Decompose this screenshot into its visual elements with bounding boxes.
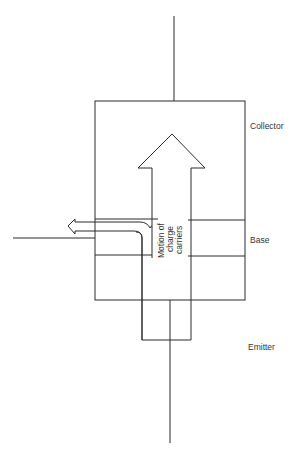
emitter-label: Emitter (248, 342, 275, 352)
base-label: Base (250, 235, 270, 245)
base-branch-outer (75, 222, 152, 228)
motion-label: Motion of charge carriers (156, 222, 184, 258)
motion-label-line3: carriers (174, 226, 184, 254)
collector-label: Collector (250, 121, 284, 131)
transistor-body (95, 101, 245, 300)
transistor-diagram: Collector Base Emitter Motion of charge … (0, 0, 303, 459)
base-branch-arrowhead (68, 219, 95, 234)
base-branch-inner (95, 231, 142, 340)
